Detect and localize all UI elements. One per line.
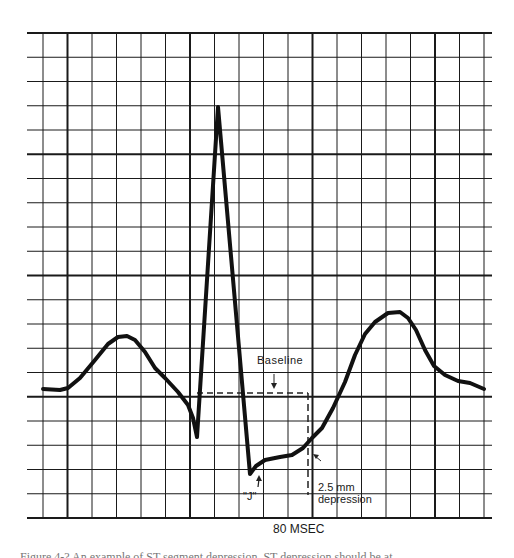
j-point-label: "J" (243, 490, 256, 502)
figure-caption: Figure 4-? An example of ST segment depr… (20, 547, 514, 558)
annotation-marks (197, 374, 321, 495)
ecg-grid (27, 33, 492, 518)
depression-value-label: 2.5 mm (318, 481, 355, 493)
ecg-figure: Baseline "J" 2.5 mm depression 80 MSEC F… (0, 0, 514, 558)
depression-word-label: depression (318, 493, 372, 505)
baseline-label: Baseline (257, 354, 303, 366)
time-scale-label: 80 MSEC (273, 523, 324, 535)
ecg-chart (0, 0, 514, 558)
